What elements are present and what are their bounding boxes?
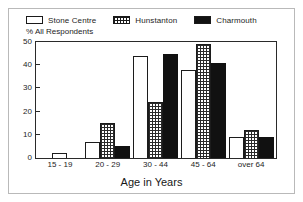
legend-label-hunstanton: Hunstanton	[135, 16, 177, 25]
legend-item-hunstanton: Hunstanton	[113, 16, 177, 25]
y-tick-label: 20	[23, 106, 32, 115]
legend-item-charmouth: Charmouth	[194, 16, 256, 25]
bar-group	[84, 42, 132, 158]
x-axis-title: Age in Years	[0, 176, 303, 188]
bar-group	[179, 42, 227, 158]
bar	[85, 142, 100, 158]
bar	[100, 123, 115, 158]
bar	[211, 63, 226, 158]
x-tick-label: 20 - 29	[95, 160, 120, 169]
x-tick-label: 30 - 44	[143, 160, 168, 169]
y-tick-label: 30	[23, 83, 32, 92]
bar-group	[36, 42, 84, 158]
bar	[163, 54, 178, 158]
legend-swatch-stone-centre	[26, 16, 43, 24]
y-tick-label: 0	[28, 153, 32, 162]
y-tick-label: 50	[23, 37, 32, 46]
y-tick-label: 10	[23, 129, 32, 138]
x-axis-tick-labels: 15 - 1920 - 2930 - 4445 - 64over 64	[36, 160, 275, 172]
bar	[259, 137, 274, 158]
bar	[181, 70, 196, 158]
chart-legend: Stone Centre Hunstanton Charmouth	[26, 14, 274, 26]
legend-swatch-charmouth	[194, 16, 211, 24]
bar	[148, 102, 163, 158]
bar-groups	[36, 42, 275, 158]
y-axis-tick-labels: 50403020100	[16, 41, 32, 157]
x-tick-label: 15 - 19	[47, 160, 72, 169]
chart-figure: Stone Centre Hunstanton Charmouth % All …	[0, 0, 303, 202]
x-tick-label: over 64	[238, 160, 265, 169]
bar	[244, 130, 259, 158]
bar-group	[132, 42, 180, 158]
bar	[133, 56, 148, 158]
legend-item-stone-centre: Stone Centre	[26, 16, 96, 25]
bar	[229, 137, 244, 158]
y-tick-label: 40	[23, 60, 32, 69]
bar	[115, 146, 130, 158]
legend-label-stone-centre: Stone Centre	[48, 16, 96, 25]
y-axis-caption: % All Respondents	[26, 27, 93, 36]
legend-label-charmouth: Charmouth	[216, 16, 256, 25]
bar	[52, 153, 67, 158]
bar	[196, 44, 211, 158]
x-tick-label: 45 - 64	[191, 160, 216, 169]
bar-group	[227, 42, 275, 158]
legend-swatch-hunstanton	[113, 16, 130, 24]
